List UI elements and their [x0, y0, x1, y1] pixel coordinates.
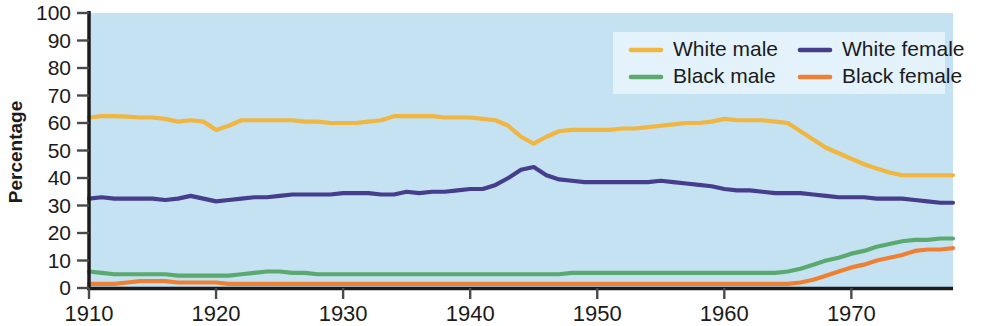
- y-tick-label: 30: [48, 194, 71, 217]
- x-tick-label: 1960: [700, 301, 749, 326]
- y-tick-label: 10: [48, 249, 71, 272]
- line-chart: 0102030405060708090100 19101920193019401…: [0, 0, 986, 326]
- y-tick-label: 0: [59, 276, 71, 299]
- x-tick-label: 1930: [319, 301, 368, 326]
- y-tick-label: 60: [48, 111, 71, 134]
- x-tick-label: 1940: [446, 301, 495, 326]
- x-tick-label: 1950: [573, 301, 622, 326]
- y-tick-label: 90: [48, 29, 71, 52]
- legend-label-black-male: Black male: [673, 64, 776, 87]
- y-axis-label: Percentage: [5, 101, 26, 203]
- y-tick-label: 80: [48, 56, 71, 79]
- legend-label-white-male: White male: [673, 37, 778, 60]
- x-axis-ticks: 1910192019301940195019601970: [65, 288, 876, 326]
- chart-legend: White maleWhite femaleBlack maleBlack fe…: [613, 32, 965, 94]
- x-tick-label: 1970: [827, 301, 876, 326]
- chart-container: 0102030405060708090100 19101920193019401…: [0, 0, 986, 326]
- x-tick-label: 1920: [192, 301, 241, 326]
- y-axis-ticks: 0102030405060708090100: [36, 1, 89, 299]
- y-tick-label: 40: [48, 166, 71, 189]
- legend-label-white-female: White female: [842, 37, 965, 60]
- y-tick-label: 50: [48, 139, 71, 162]
- y-tick-label: 20: [48, 221, 71, 244]
- legend-label-black-female: Black female: [842, 64, 962, 87]
- x-tick-label: 1910: [65, 301, 114, 326]
- y-tick-label: 100: [36, 1, 71, 24]
- y-tick-label: 70: [48, 84, 71, 107]
